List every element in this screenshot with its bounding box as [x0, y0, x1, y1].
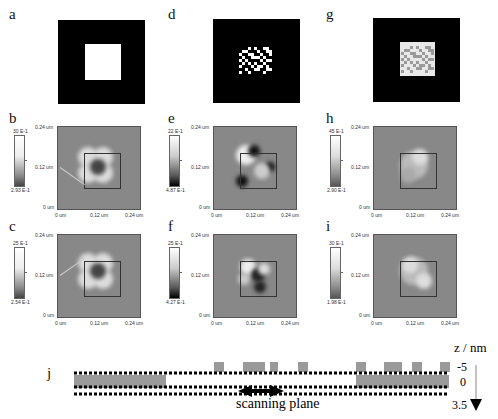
afm-mask-outline-e [240, 153, 277, 189]
axis-tick-i-y-bottom: 0 um [359, 312, 370, 318]
mask-d-pixel [242, 62, 245, 65]
mask-d-pixel [248, 71, 251, 74]
axis-tick-f-x-mid: 0.12 um [246, 320, 264, 326]
axis-tick-b-x-right: 0.24 um [125, 212, 143, 218]
colorbar-max-f: 25 E-1 [168, 240, 183, 246]
mask-g-pixel [431, 52, 434, 55]
axis-tick-c-x-left: 0 um [55, 320, 66, 326]
colorbar-min-h: 2.90 E-1 [327, 187, 346, 193]
colorbar-tick [24, 272, 27, 273]
colorbar-min-b: 2.93 E-1 [11, 187, 30, 193]
mask-g-pixel [422, 64, 425, 67]
panel-label-c: c [9, 218, 16, 235]
colorbar-max-e: 22 E-1 [168, 128, 183, 134]
colorbar-min-e: 4.87 E-1 [166, 187, 185, 193]
axis-tick-h-x-left: 0 um [371, 212, 382, 218]
mask-g-pixel [401, 64, 404, 67]
colorbar-max-i: 30 E-1 [329, 240, 344, 246]
z-axis-label: z / nm [454, 340, 487, 356]
mask-d-pixel [269, 59, 272, 62]
z-axis-arrow-icon [470, 399, 482, 411]
colorbar-tick [179, 160, 182, 161]
panel-label-b: b [9, 110, 17, 127]
axis-tick-h-x-mid: 0.12 um [406, 212, 424, 218]
axis-tick-c-x-right: 0.24 um [125, 320, 143, 326]
colorbar-tick [179, 272, 182, 273]
mask-feature-block [384, 362, 402, 372]
colorbar-b [14, 135, 25, 187]
axis-tick-b-y-bottom: 0 um [43, 204, 54, 210]
afm-image-e [213, 126, 297, 210]
afm-mask-outline-h [400, 153, 437, 189]
axis-tick-h-y-top: 0.24 um [351, 124, 369, 130]
axis-tick-h-y-mid: 0.12 um [351, 164, 369, 170]
axis-tick-c-x-mid: 0.12 um [90, 320, 108, 326]
scanning-plane-label: scanning plane [236, 396, 320, 412]
axis-tick-e-y-bottom: 0 um [199, 204, 210, 210]
panel-label-h: h [326, 110, 334, 127]
axis-tick-b-x-left: 0 um [55, 212, 66, 218]
axis-tick-h-x-right: 0.24 um [441, 212, 459, 218]
panel-label-g: g [326, 6, 334, 23]
axis-tick-e-y-top: 0.24 um [191, 124, 209, 130]
axis-tick-f-x-left: 0 um [211, 320, 222, 326]
panel-label-f: f [168, 218, 173, 235]
mask-g-pattern [400, 42, 435, 76]
axis-tick-i-y-top: 0.24 um [351, 232, 369, 238]
afm-image-b [57, 126, 141, 210]
panel-label-d: d [168, 6, 176, 23]
colorbar-e [169, 135, 180, 187]
mask-g-pixel [410, 70, 413, 73]
colorbar-min-c: 2.54 E-1 [11, 299, 30, 305]
axis-tick-i-x-left: 0 um [371, 320, 382, 326]
colorbar-max-h: 45 E-1 [329, 128, 344, 134]
mask-g-pixel [431, 67, 434, 70]
z-tick-3.5: 3.5 [452, 398, 467, 413]
colorbar-i [330, 247, 341, 299]
axis-tick-b-x-mid: 0.12 um [90, 212, 108, 218]
mask-a-image [58, 20, 145, 104]
axis-tick-e-x-left: 0 um [211, 212, 222, 218]
axis-tick-i-y-mid: 0.12 um [351, 272, 369, 278]
axis-tick-f-x-right: 0.24 um [281, 320, 299, 326]
colorbar-min-f: 4.27 E-1 [166, 299, 185, 305]
panel-label-e: e [168, 110, 175, 127]
mask-g-pixel [419, 67, 422, 70]
colorbar-max-c: 25 E-1 [13, 240, 28, 246]
mask-g-pixel [425, 70, 428, 73]
colorbar-f [169, 247, 180, 299]
afm-image-i [373, 234, 457, 318]
mask-feature-block [356, 362, 366, 372]
colorbar-min-i: 1.98 E-1 [327, 299, 346, 305]
mask-feature-block [270, 362, 278, 372]
mask-feature-block [243, 362, 265, 372]
afm-image-h [373, 126, 457, 210]
axis-tick-f-y-top: 0.24 um [191, 232, 209, 238]
mask-feature-block [298, 362, 308, 372]
afm-mask-outline-c [84, 261, 121, 297]
axis-tick-b-y-mid: 0.12 um [35, 164, 53, 170]
mask-d-pixel [248, 47, 251, 50]
z-tick-neg5: -5 [457, 360, 467, 375]
afm-mask-outline-f [240, 261, 277, 297]
colorbar-tick [24, 160, 27, 161]
panel-label-a: a [9, 6, 16, 23]
colorbar-tick [340, 160, 343, 161]
mask-feature-block [412, 362, 422, 372]
afm-mask-outline-b [84, 153, 121, 189]
axis-tick-i-x-right: 0.24 um [441, 320, 459, 326]
colorbar-c [14, 247, 25, 299]
colorbar-h [330, 135, 341, 187]
mask-d-pattern [239, 44, 274, 78]
axis-tick-e-x-mid: 0.12 um [246, 212, 264, 218]
mask-d-pixel [269, 68, 272, 71]
afm-image-f [213, 234, 297, 318]
mask-g-pixel [404, 61, 407, 64]
mask-d-pixel [260, 65, 263, 68]
axis-tick-c-y-mid: 0.12 um [35, 272, 53, 278]
axis-tick-e-x-right: 0.24 um [281, 212, 299, 218]
colorbar-max-b: 30 E-1 [13, 128, 28, 134]
axis-tick-f-y-mid: 0.12 um [191, 272, 209, 278]
afm-mask-outline-i [400, 261, 437, 297]
axis-tick-c-y-top: 0.24 um [35, 232, 53, 238]
